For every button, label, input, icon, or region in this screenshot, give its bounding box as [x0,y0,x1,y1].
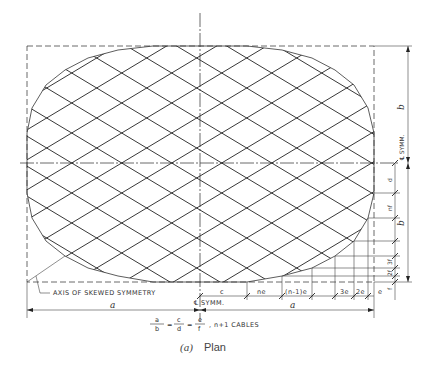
skewed-symmetry-axis [27,256,65,282]
dim-e: e [378,288,382,296]
right-dimensions [395,46,408,300]
dim-3e: 3e [340,288,349,296]
axis-skewed-symmetry-label: AXIS OF SKEWED SYMMETRY [53,289,156,297]
caption-tag: (a) [180,341,193,353]
dim-n-minus-1-e: (n-1)e [285,288,307,296]
dim-ne: ne [257,288,266,296]
dim-2e: 2e [356,288,365,296]
svg-text:=: = [167,321,173,329]
cable-net-plan-drawing: AXIS OF SKEWED SYMMETRY [0,0,441,368]
dim-c: c [220,288,224,296]
svg-text:=: = [187,321,193,329]
dim-f: f [386,287,393,290]
cables-count-label: , n+1 CABLES [209,321,259,329]
dim-nf: nf [386,204,393,211]
dim-d: d [386,178,393,182]
skewed-axis-leader [36,276,50,293]
svg-text:d: d [177,325,182,333]
ratio-formula: a b = c d = e f , n+1 CABLES [150,316,259,333]
symm-right-label: ℄ SYMM. [398,134,405,161]
figure-caption: (a) Plan [180,341,226,353]
dim-b-bottom: b [396,220,406,226]
svg-text:f: f [198,325,201,333]
cables-family-up [0,0,441,368]
svg-text:e: e [198,316,202,324]
symm-bottom-label: ℄ SYMM. [193,299,224,307]
cable-grid [0,0,441,368]
svg-text:c: c [177,316,181,324]
dim-b-top: b [396,104,406,110]
bottom-dimensions [27,46,412,318]
dim-3f: 3f [386,258,393,265]
cables-family-down [0,0,441,368]
caption-title: Plan [204,341,226,353]
edge-cable-outline [27,46,374,282]
boundary-frame [27,46,374,282]
dim-a-left: a [110,300,115,310]
dim-2f: 2f [386,269,393,276]
svg-text:a: a [155,316,159,324]
dim-a-right: a [290,300,295,310]
svg-text:b: b [155,325,160,333]
